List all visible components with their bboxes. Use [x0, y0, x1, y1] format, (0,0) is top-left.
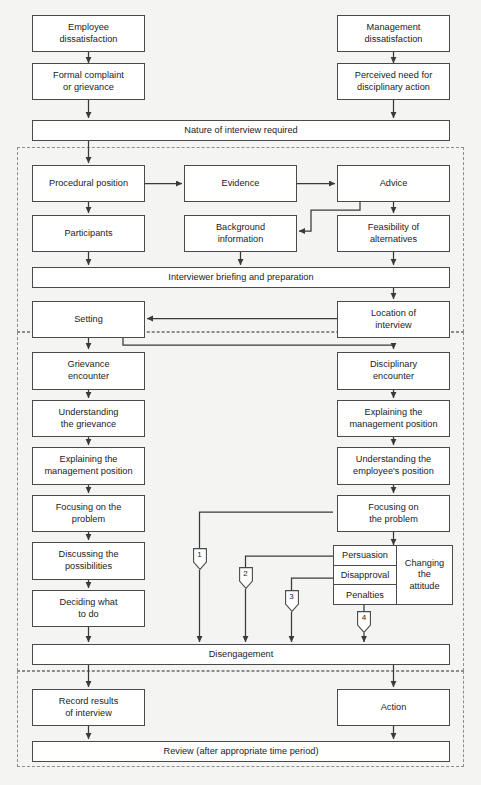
node-label: Understanding theemployee's position [353, 454, 434, 477]
node-participants[interactable]: Participants [32, 215, 145, 252]
node-review[interactable]: Review (after appropriate time period) [32, 741, 450, 762]
node-label: Focusing onthe problem [368, 502, 418, 525]
node-focusing-on-the-problem-left[interactable]: Focusing on theproblem [32, 495, 145, 532]
node-label: Record resultsof interview [59, 696, 119, 719]
node-action[interactable]: Action [337, 689, 450, 726]
node-changing-the-attitude: Changingtheattitude [397, 546, 452, 604]
node-explaining-management-position-left[interactable]: Explaining themanagement position [32, 447, 145, 485]
node-record-results[interactable]: Record resultsof interview [32, 689, 145, 726]
node-label: Feasibility ofalternatives [368, 222, 419, 245]
node-disapproval[interactable]: Disapproval [334, 566, 396, 586]
marker-label: 3 [289, 592, 293, 602]
node-label: Review (after appropriate time period) [164, 746, 319, 758]
node-label: Action [381, 702, 407, 714]
marker-label: 2 [243, 569, 247, 579]
node-advice[interactable]: Advice [337, 165, 450, 202]
node-disengagement[interactable]: Disengagement [32, 644, 450, 665]
node-label: Grievanceencounter [67, 359, 109, 382]
node-label: Advice [380, 178, 408, 190]
node-label: Disciplinaryencounter [370, 359, 417, 382]
node-label: Changingtheattitude [405, 558, 444, 593]
node-procedural-position[interactable]: Procedural position [32, 165, 145, 202]
route-marker-1: 1 [193, 548, 207, 570]
node-focusing-on-the-problem-right[interactable]: Focusing onthe problem [337, 495, 450, 532]
node-label: Disengagement [209, 649, 274, 661]
node-evidence[interactable]: Evidence [184, 165, 297, 202]
node-label: Interviewer briefing and preparation [168, 272, 313, 284]
node-understanding-employee-position[interactable]: Understanding theemployee's position [337, 447, 450, 485]
attitude-options: Persuasion Disapproval Penalties [334, 546, 397, 604]
node-label: Location ofinterview [371, 308, 416, 331]
node-label: Procedural position [49, 178, 128, 190]
marker-label: 1 [197, 550, 201, 560]
flowchart-diagram: Employeedissatisfaction Formal complaint… [0, 0, 481, 785]
node-formal-complaint[interactable]: Formal complaintor grievance [32, 63, 145, 100]
node-deciding-what-to-do[interactable]: Deciding whatto do [32, 590, 145, 627]
node-label: Understandingthe grievance [58, 407, 118, 430]
node-grievance-encounter[interactable]: Grievanceencounter [32, 352, 145, 390]
node-label: Setting [74, 314, 103, 326]
node-interviewer-briefing[interactable]: Interviewer briefing and preparation [32, 267, 450, 288]
node-discussing-the-possibilities[interactable]: Discussing thepossibilities [32, 542, 145, 580]
node-label: Participants [64, 228, 112, 240]
node-perceived-need[interactable]: Perceived need fordisciplinary action [337, 63, 450, 100]
node-label: Deciding whatto do [60, 597, 118, 620]
node-label: Managementdissatisfaction [364, 22, 422, 45]
node-persuasion[interactable]: Persuasion [334, 546, 396, 566]
node-disciplinary-encounter[interactable]: Disciplinaryencounter [337, 352, 450, 390]
node-label: Penalties [346, 590, 384, 600]
node-penalties[interactable]: Penalties [334, 585, 396, 604]
node-explaining-management-position-right[interactable]: Explaining themanagement position [337, 400, 450, 437]
node-label: Explaining themanagement position [44, 454, 132, 477]
node-label: Nature of interview required [184, 125, 297, 137]
node-label: Focusing on theproblem [56, 502, 122, 525]
node-feasibility-of-alternatives[interactable]: Feasibility ofalternatives [337, 215, 450, 252]
node-label: Disapproval [341, 570, 390, 580]
node-management-dissatisfaction[interactable]: Managementdissatisfaction [337, 15, 450, 52]
node-setting[interactable]: Setting [32, 301, 145, 338]
group-changing-the-attitude: Persuasion Disapproval Penalties Changin… [333, 545, 453, 605]
marker-label: 4 [362, 613, 366, 623]
route-marker-2: 2 [239, 567, 253, 589]
node-background-information[interactable]: Backgroundinformation [184, 215, 297, 252]
node-location-of-interview[interactable]: Location ofinterview [337, 301, 450, 338]
route-marker-4: 4 [357, 611, 371, 633]
node-label: Formal complaintor grievance [53, 70, 124, 93]
node-label: Persuasion [342, 550, 388, 560]
node-label: Explaining themanagement position [349, 407, 437, 430]
node-understanding-the-grievance[interactable]: Understandingthe grievance [32, 400, 145, 437]
node-label: Perceived need fordisciplinary action [355, 70, 432, 93]
route-marker-3: 3 [285, 590, 299, 612]
node-label: Backgroundinformation [216, 222, 265, 245]
node-nature-of-interview[interactable]: Nature of interview required [32, 120, 450, 141]
node-label: Employeedissatisfaction [59, 22, 117, 45]
node-label: Discussing thepossibilities [58, 549, 118, 572]
node-label: Evidence [222, 178, 260, 190]
node-employee-dissatisfaction[interactable]: Employeedissatisfaction [32, 15, 145, 52]
